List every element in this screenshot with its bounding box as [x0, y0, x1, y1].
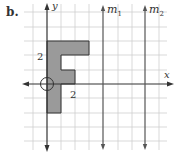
x-axis — [22, 82, 174, 87]
m2-label: m2 — [149, 3, 164, 18]
x-axis-label: x — [164, 69, 170, 80]
x-tick-label: 2 — [70, 89, 76, 100]
y-tick-label: 2 — [37, 51, 43, 62]
coordinate-diagram: b. y x 2 2 m1 m2 — [0, 0, 180, 157]
f-shape — [47, 41, 89, 113]
m1-label: m1 — [107, 3, 122, 18]
part-label: b. — [6, 5, 19, 19]
y-axis-label: y — [51, 0, 58, 11]
